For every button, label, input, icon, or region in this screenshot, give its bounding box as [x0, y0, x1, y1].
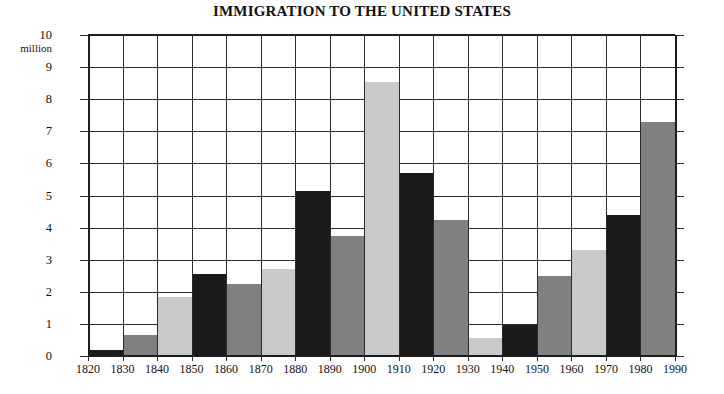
bar [641, 122, 675, 356]
y-tick-mark-right [675, 324, 684, 325]
bar [124, 335, 158, 356]
bar [227, 284, 261, 356]
x-tick-mark [330, 356, 331, 361]
x-tick-mark [261, 356, 262, 361]
y-axis-unit-label: million [0, 43, 52, 54]
x-tick-mark [226, 356, 227, 361]
y-tick-label: 2 [8, 286, 52, 298]
gridline-vertical-overlay [364, 35, 365, 356]
y-tick-label: 5 [8, 190, 52, 202]
y-tick-label: 0 [8, 350, 52, 362]
x-axis-baseline [88, 355, 675, 357]
bar [158, 297, 192, 356]
y-tick-mark-right [675, 356, 684, 357]
x-tick-mark [88, 356, 89, 361]
gridline-vertical-overlay [571, 35, 572, 356]
y-tick-label: 1 [8, 318, 52, 330]
gridline-vertical-overlay [330, 35, 331, 356]
gridline-vertical-overlay [502, 35, 503, 356]
y-tick-mark-right [675, 99, 684, 100]
bar-series [88, 35, 675, 356]
x-tick-mark [364, 356, 365, 361]
x-tick-mark [192, 356, 193, 361]
y-tick-mark-right [675, 131, 684, 132]
x-tick-mark [640, 356, 641, 361]
bar [296, 191, 330, 356]
gridline-vertical-overlay [468, 35, 469, 356]
gridline-vertical-overlay [88, 35, 90, 356]
y-tick-label: 9 [8, 61, 52, 73]
x-tick-mark [123, 356, 124, 361]
gridline-vertical-overlay [261, 35, 262, 356]
y-tick-label: 8 [8, 93, 52, 105]
bar [193, 274, 227, 356]
y-tick-mark-right [675, 67, 684, 68]
page-title: IMMIGRATION TO THE UNITED STATES [0, 3, 724, 20]
bar [262, 269, 296, 356]
x-tick-mark [157, 356, 158, 361]
x-tick-mark [468, 356, 469, 361]
x-tick-mark [433, 356, 434, 361]
gridline-vertical-overlay [226, 35, 227, 356]
y-tick-label: 6 [8, 157, 52, 169]
gridline-vertical-overlay [433, 35, 434, 356]
y-tick-mark-right [675, 35, 684, 36]
y-tick-label: 3 [8, 254, 52, 266]
x-tick-mark [399, 356, 400, 361]
x-tick-mark [675, 356, 676, 361]
gridline-vertical-overlay [640, 35, 641, 356]
y-tick-mark-right [675, 292, 684, 293]
bar [572, 250, 606, 356]
bar [331, 236, 365, 356]
x-tick-mark [502, 356, 503, 361]
y-tick-mark-right [675, 260, 684, 261]
bar [434, 220, 468, 356]
y-tick-label: 7 [8, 125, 52, 137]
x-tick-mark [571, 356, 572, 361]
bar [607, 215, 641, 356]
bar [365, 82, 399, 356]
bar [469, 338, 503, 356]
y-tick-label: 10 [8, 29, 52, 41]
x-tick-label: 1990 [653, 362, 697, 376]
gridline-vertical-overlay [606, 35, 607, 356]
bar [503, 325, 537, 356]
bar [538, 276, 572, 356]
gridline-vertical-overlay [192, 35, 193, 356]
gridline-vertical-overlay [157, 35, 158, 356]
x-axis: 1820183018401850186018701880189019001910… [0, 362, 724, 384]
y-tick-label: 4 [8, 222, 52, 234]
x-tick-mark [537, 356, 538, 361]
gridline-vertical-overlay [399, 35, 400, 356]
y-tick-mark-right [675, 228, 684, 229]
bar [400, 173, 434, 356]
y-tick-mark-right [675, 163, 684, 164]
x-tick-mark [606, 356, 607, 361]
y-tick-mark-right [675, 196, 684, 197]
y-axis: 012345678910million [0, 0, 88, 394]
gridline-vertical-overlay [295, 35, 296, 356]
x-tick-mark [295, 356, 296, 361]
gridline-vertical-overlay [123, 35, 124, 356]
gridline-vertical-overlay [537, 35, 538, 356]
